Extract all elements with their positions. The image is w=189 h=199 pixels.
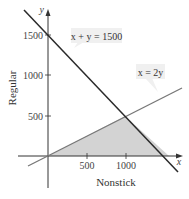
y-tick-label-1000: 1000 <box>23 70 43 81</box>
y-axis-title: Regular <box>6 70 18 105</box>
label-eq1: x + y = 1500 <box>71 31 122 42</box>
callout-eq2 <box>145 78 158 92</box>
label-eq2: x = 2y <box>138 67 164 78</box>
x-axis-var-label: x <box>176 156 182 167</box>
y-axis-var-label: y <box>39 4 45 15</box>
y-tick-label-500: 500 <box>28 111 43 122</box>
x-axis-title: Nonstick <box>96 176 136 188</box>
x-tick-label-500: 500 <box>80 160 95 171</box>
y-tick-label-1500: 1500 <box>23 30 43 41</box>
y-axis-arrow-icon <box>46 9 51 16</box>
lp-graph: x + y = 1500 x = 2y 1500 1000 500 500 10… <box>0 0 189 199</box>
feasible-region <box>48 116 169 156</box>
x-tick-label-1000: 1000 <box>116 160 136 171</box>
